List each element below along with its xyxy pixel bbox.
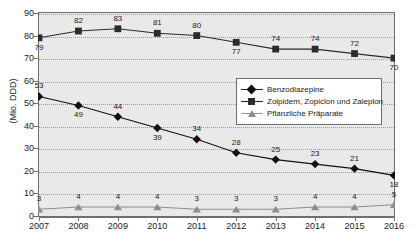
data-point-label: 4 — [63, 193, 93, 201]
data-point-marker — [74, 101, 82, 109]
y-axis-tick-label: 0 — [0, 212, 34, 221]
y-axis-tick-mark — [33, 13, 38, 14]
y-axis-tick-label: 90 — [0, 9, 34, 18]
x-axis-tick-mark — [394, 217, 395, 221]
data-point-marker — [232, 149, 240, 157]
data-point-marker — [193, 135, 201, 143]
x-axis-tick-mark — [355, 217, 356, 221]
data-point-label: 74 — [261, 35, 291, 43]
data-point-label: 77 — [221, 48, 251, 56]
x-axis-tick-label: 2009 — [98, 221, 138, 231]
series-line-2 — [39, 205, 394, 210]
data-point-label: 3 — [24, 195, 54, 203]
data-point-label: 28 — [221, 139, 251, 147]
data-point-marker — [272, 46, 279, 53]
data-point-marker — [153, 124, 161, 132]
x-axis-tick-label: 2011 — [177, 221, 217, 231]
data-point-label: 34 — [182, 125, 212, 133]
data-point-label: 4 — [300, 193, 330, 201]
legend-marker-icon — [241, 85, 263, 94]
line-chart: (Mio. DDD) 01020304050607080902007200820… — [0, 0, 416, 247]
data-point-label: 4 — [103, 193, 133, 201]
chart-legend: BenzodiazepineZolpidem, Zopiclon und Zal… — [236, 78, 382, 125]
data-point-label: 49 — [63, 111, 93, 119]
y-axis-tick-mark — [33, 126, 38, 127]
y-gridline — [39, 217, 394, 218]
x-axis-tick-mark — [157, 217, 158, 221]
legend-item-0[interactable]: Benzodiazepine — [241, 84, 376, 95]
legend-label: Benzodiazepine — [267, 85, 324, 94]
x-axis-tick-label: 2012 — [216, 221, 256, 231]
y-axis-tick-mark — [33, 103, 38, 104]
data-point-marker — [271, 155, 279, 163]
y-axis-tick-mark — [33, 36, 38, 37]
data-point-label: 39 — [142, 134, 172, 142]
data-point-marker — [390, 171, 395, 179]
x-axis-tick-label: 2014 — [295, 221, 335, 231]
data-point-label: 5 — [379, 191, 409, 199]
y-axis-tick-label: 20 — [0, 167, 34, 176]
x-axis-tick-label: 2013 — [256, 221, 296, 231]
data-point-marker — [351, 50, 358, 57]
data-point-label: 74 — [300, 35, 330, 43]
data-point-label: 81 — [142, 19, 172, 27]
data-point-label: 23 — [300, 150, 330, 158]
data-point-label: 83 — [103, 15, 133, 23]
data-point-marker — [391, 55, 395, 62]
data-point-label: 72 — [340, 40, 370, 48]
data-point-marker — [38, 92, 43, 100]
y-axis-tick-mark — [33, 148, 38, 149]
data-point-marker — [233, 39, 240, 46]
legend-item-2[interactable]: Pflanzliche Präparate — [241, 108, 376, 119]
x-axis-tick-mark — [197, 217, 198, 221]
y-axis-tick-label: 30 — [0, 144, 34, 153]
x-axis-tick-mark — [118, 217, 119, 221]
x-axis-tick-label: 2016 — [374, 221, 414, 231]
y-axis-tick-label: 40 — [0, 122, 34, 131]
data-point-marker — [350, 164, 358, 172]
x-axis-tick-label: 2007 — [19, 221, 59, 231]
data-point-label: 3 — [261, 195, 291, 203]
y-axis-tick-label: 50 — [0, 99, 34, 108]
data-point-label: 53 — [24, 82, 54, 90]
x-axis-tick-mark — [236, 217, 237, 221]
x-axis-tick-mark — [276, 217, 277, 221]
legend-label: Pflanzliche Präparate — [267, 109, 343, 118]
legend-label: Zolpidem, Zopiclon und Zaleplon — [267, 97, 383, 106]
data-point-label: 44 — [103, 103, 133, 111]
x-axis-tick-mark — [39, 217, 40, 221]
x-axis-tick-mark — [78, 217, 79, 221]
legend-marker-icon — [241, 97, 263, 106]
y-axis-tick-mark — [33, 216, 38, 217]
x-axis-tick-label: 2015 — [335, 221, 375, 231]
y-axis-tick-mark — [33, 58, 38, 59]
data-point-marker — [154, 30, 161, 37]
y-axis-tick-label: 70 — [0, 54, 34, 63]
x-axis-tick-mark — [315, 217, 316, 221]
data-point-label: 79 — [24, 44, 54, 52]
x-axis-tick-label: 2010 — [137, 221, 177, 231]
data-point-label: 82 — [63, 17, 93, 25]
legend-marker-icon — [241, 109, 263, 118]
data-point-label: 4 — [142, 193, 172, 201]
data-point-marker — [311, 160, 319, 168]
y-axis-tick-mark — [33, 171, 38, 172]
y-axis-tick-label: 80 — [0, 32, 34, 41]
data-point-marker — [114, 25, 121, 32]
data-point-label: 18 — [379, 181, 409, 189]
data-point-label: 4 — [340, 193, 370, 201]
data-point-marker — [38, 34, 42, 41]
data-point-marker — [75, 28, 82, 35]
data-point-label: 70 — [379, 64, 409, 72]
data-point-label: 25 — [261, 146, 291, 154]
data-point-marker — [114, 113, 122, 121]
data-point-label: 80 — [182, 22, 212, 30]
legend-item-1[interactable]: Zolpidem, Zopiclon und Zaleplon — [241, 96, 376, 107]
data-point-marker — [312, 46, 319, 53]
x-axis-tick-label: 2008 — [58, 221, 98, 231]
data-point-marker — [193, 32, 200, 39]
data-point-label: 21 — [340, 155, 370, 163]
data-point-label: 3 — [182, 195, 212, 203]
data-point-label: 3 — [221, 195, 251, 203]
